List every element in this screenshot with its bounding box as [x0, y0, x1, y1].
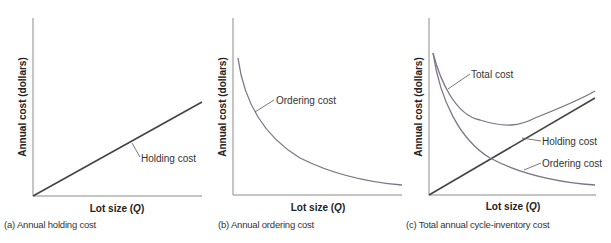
ordering-cost-curve [238, 58, 402, 185]
x-axis-label: Lot size (Q) [291, 202, 345, 213]
holding-cost-label: Holding cost [542, 136, 597, 147]
total-cost-chart: Total cost Holding cost Ordering cost An… [400, 0, 611, 243]
ordering-cost-chart: Ordering cost Annual cost (dollars) Lot … [200, 0, 410, 243]
total-cost-label: Total cost [471, 69, 513, 80]
holding-cost-label: Holding cost [141, 153, 196, 164]
total-cost-curve [433, 53, 595, 125]
y-axis-label: Annual cost (dollars) [17, 57, 28, 156]
ordering-cost-leader [255, 100, 274, 112]
caption: (a) Annual holding cost [4, 219, 96, 230]
x-axis-label: Lot size (Q) [90, 203, 144, 214]
ordering-cost-leader [524, 163, 541, 170]
panel-holding-cost: Holding cost Annual cost (dollars) Lot s… [0, 0, 205, 243]
total-cost-leader [448, 74, 470, 89]
ordering-cost-label: Ordering cost [542, 158, 602, 169]
y-axis-label: Annual cost (dollars) [413, 57, 424, 156]
ordering-cost-label: Ordering cost [276, 95, 336, 106]
holding-cost-line [33, 102, 202, 196]
panel-total-cost: Total cost Holding cost Ordering cost An… [400, 0, 611, 243]
holding-cost-leader [132, 143, 140, 157]
caption: (b) Annual ordering cost [218, 219, 314, 230]
caption: (c) Total annual cycle-inventory cost [406, 219, 549, 230]
holding-cost-chart: Holding cost Annual cost (dollars) Lot s… [0, 0, 205, 243]
x-axis-label: Lot size (Q) [486, 201, 540, 212]
panel-ordering-cost: Ordering cost Annual cost (dollars) Lot … [200, 0, 410, 243]
y-axis-label: Annual cost (dollars) [217, 57, 228, 156]
